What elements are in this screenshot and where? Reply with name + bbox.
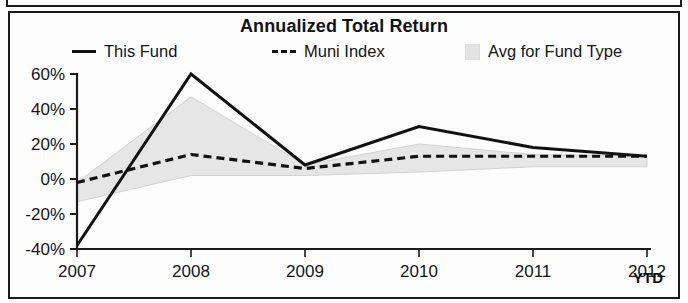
y-axis-tick-label: 20% — [31, 135, 65, 154]
chart-screenshot: Annualized Total Return This Fund Muni I… — [0, 0, 688, 303]
legend-item-this-fund: This Fund — [72, 42, 177, 61]
chart-legend: This Fund Muni Index Avg for Fund Type — [10, 42, 678, 66]
chart-title: Annualized Total Return — [10, 16, 678, 37]
x-axis-tick-label: 2007 — [58, 262, 96, 281]
y-axis-tick-label: 0% — [40, 170, 65, 189]
y-axis-tick-label: 40% — [31, 100, 65, 119]
band-avg-for-fund-type — [77, 97, 647, 202]
chart-frame: Annualized Total Return This Fund Muni I… — [8, 11, 680, 299]
x-axis-tick-label: 2011 — [515, 262, 552, 281]
legend-item-avg-for-fund-type: Avg for Fund Type — [465, 42, 622, 61]
y-axis-tick-label: 60% — [31, 65, 65, 84]
x-axis-ytd-label: YTD — [633, 269, 663, 286]
legend-label: Muni Index — [304, 42, 385, 61]
y-axis-tick-label: -40% — [25, 240, 65, 259]
dashed-line-swatch-icon — [272, 50, 296, 53]
line-this-fund — [77, 74, 647, 246]
legend-label: This Fund — [104, 42, 177, 61]
line-muni-index — [77, 155, 647, 183]
outer-box-edge — [6, 0, 682, 7]
legend-label: Avg for Fund Type — [488, 42, 622, 61]
filled-square-swatch-icon — [465, 44, 480, 60]
x-axis-tick-label: 2010 — [400, 262, 438, 281]
solid-line-swatch-icon — [72, 50, 96, 53]
x-axis-tick-label: 2008 — [172, 262, 210, 281]
y-axis-tick-label: -20% — [25, 205, 65, 224]
x-axis-tick-label: 2009 — [286, 262, 324, 281]
legend-item-muni-index: Muni Index — [272, 42, 385, 61]
